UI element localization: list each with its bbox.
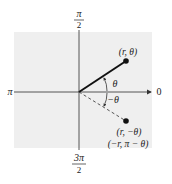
label-left: π [7, 86, 13, 97]
label-top-num: π [76, 8, 82, 19]
label-point-neg-r-pi-minus-theta: (−r, π − θ) [108, 139, 149, 150]
polar-diagram: π 2 3π 2 π 0 (r, θ) (r, −θ) (−r, π − θ) … [0, 0, 172, 184]
label-point-r-theta: (r, θ) [119, 47, 137, 58]
label-top-den: 2 [77, 20, 82, 30]
label-angle-theta: θ [113, 78, 118, 89]
label-right: 0 [157, 86, 162, 97]
label-bottom-den: 2 [77, 165, 82, 175]
point-r-theta [123, 58, 129, 64]
label-angle-neg-theta: −θ [107, 94, 119, 105]
label-point-r-neg-theta: (r, −θ) [117, 127, 142, 138]
label-bottom-num: 3π [73, 152, 85, 163]
point-r-neg-theta [123, 118, 129, 124]
